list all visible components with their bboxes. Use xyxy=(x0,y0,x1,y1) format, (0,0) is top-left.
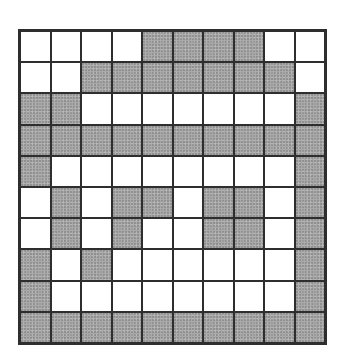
grid-cell-filled xyxy=(52,126,81,155)
grid-cell-empty xyxy=(265,32,294,61)
grid-cell-filled xyxy=(113,126,142,155)
grid-cell-empty xyxy=(204,282,233,311)
grid-cell-filled xyxy=(204,219,233,248)
grid-cell-empty xyxy=(143,282,172,311)
grid-cell-empty xyxy=(174,282,203,311)
grid-cell-filled xyxy=(235,219,264,248)
grid-cell-empty xyxy=(204,250,233,279)
grid-cell-filled xyxy=(82,313,111,342)
grid-cell-filled xyxy=(235,188,264,217)
grid-cell-empty xyxy=(21,63,50,92)
grid-cell-filled xyxy=(143,63,172,92)
grid-cell-empty xyxy=(265,188,294,217)
grid-cell-filled xyxy=(235,126,264,155)
grid-cell-empty xyxy=(235,250,264,279)
grid-cell-empty xyxy=(82,157,111,186)
grid-cell-filled xyxy=(296,94,325,123)
grid-cell-empty xyxy=(235,94,264,123)
grid-cell-empty xyxy=(113,157,142,186)
grid-cell-filled xyxy=(21,126,50,155)
grid-cell-empty xyxy=(113,282,142,311)
grid-cell-empty xyxy=(82,94,111,123)
grid-cell-filled xyxy=(174,63,203,92)
grid-cell-filled xyxy=(204,313,233,342)
grid-cell-filled xyxy=(143,126,172,155)
grid-cell-filled xyxy=(174,126,203,155)
grid-cell-filled xyxy=(174,313,203,342)
pixel-grid xyxy=(18,29,327,345)
grid-cell-empty xyxy=(174,219,203,248)
grid-cell-empty xyxy=(143,219,172,248)
grid-cell-empty xyxy=(52,63,81,92)
grid-cell-filled xyxy=(235,32,264,61)
grid-cell-empty xyxy=(265,219,294,248)
grid-cell-empty xyxy=(143,250,172,279)
grid-cell-filled xyxy=(52,313,81,342)
grid-cell-empty xyxy=(265,94,294,123)
grid-cell-filled xyxy=(296,188,325,217)
grid-cell-filled xyxy=(204,63,233,92)
grid-cell-empty xyxy=(296,63,325,92)
grid-cell-empty xyxy=(265,282,294,311)
grid-cell-filled xyxy=(21,313,50,342)
grid-cell-empty xyxy=(52,157,81,186)
grid-cell-empty xyxy=(235,282,264,311)
grid-cell-filled xyxy=(204,126,233,155)
grid-cell-empty xyxy=(21,219,50,248)
grid-cell-empty xyxy=(113,250,142,279)
grid-cell-filled xyxy=(21,282,50,311)
grid-cell-empty xyxy=(174,188,203,217)
grid-cell-filled xyxy=(113,63,142,92)
grid-cell-empty xyxy=(52,250,81,279)
grid-cell-filled xyxy=(296,219,325,248)
grid-cell-empty xyxy=(265,157,294,186)
grid-cell-filled xyxy=(204,188,233,217)
grid-cell-empty xyxy=(174,250,203,279)
grid-cell-filled xyxy=(235,63,264,92)
grid-cell-empty xyxy=(204,94,233,123)
grid-cell-empty xyxy=(296,32,325,61)
grid-cell-filled xyxy=(265,126,294,155)
grid-cell-filled xyxy=(52,94,81,123)
grid-cell-empty xyxy=(143,94,172,123)
diagram-canvas xyxy=(0,0,348,351)
grid-cell-empty xyxy=(174,157,203,186)
grid-cell-empty xyxy=(82,32,111,61)
grid-cell-empty xyxy=(82,219,111,248)
grid-cell-filled xyxy=(174,32,203,61)
grid-cell-filled xyxy=(204,32,233,61)
grid-cell-empty xyxy=(82,282,111,311)
grid-cell-empty xyxy=(21,188,50,217)
grid-cell-filled xyxy=(21,157,50,186)
grid-cell-empty xyxy=(113,32,142,61)
grid-cell-filled xyxy=(143,32,172,61)
grid-cell-empty xyxy=(82,188,111,217)
grid-cell-filled xyxy=(235,313,264,342)
grid-cell-filled xyxy=(52,188,81,217)
grid-cell-filled xyxy=(21,94,50,123)
grid-cell-filled xyxy=(113,313,142,342)
grid-cell-empty xyxy=(204,157,233,186)
grid-cell-filled xyxy=(296,282,325,311)
grid-cell-filled xyxy=(21,250,50,279)
grid-cell-filled xyxy=(296,250,325,279)
grid-cell-filled xyxy=(296,157,325,186)
grid-cell-empty xyxy=(265,250,294,279)
grid-cell-empty xyxy=(235,157,264,186)
grid-cell-empty xyxy=(174,94,203,123)
grid-cell-empty xyxy=(21,32,50,61)
grid-cell-empty xyxy=(52,282,81,311)
grid-cell-filled xyxy=(143,188,172,217)
grid-cell-filled xyxy=(296,313,325,342)
grid-cell-filled xyxy=(143,313,172,342)
grid-cell-filled xyxy=(265,313,294,342)
grid-cell-empty xyxy=(113,94,142,123)
grid-cell-filled xyxy=(52,219,81,248)
grid-cell-filled xyxy=(82,126,111,155)
grid-cell-filled xyxy=(113,188,142,217)
grid-cell-filled xyxy=(113,219,142,248)
grid-cell-empty xyxy=(143,157,172,186)
grid-cell-filled xyxy=(82,250,111,279)
grid-cell-filled xyxy=(296,126,325,155)
grid-cell-filled xyxy=(82,63,111,92)
